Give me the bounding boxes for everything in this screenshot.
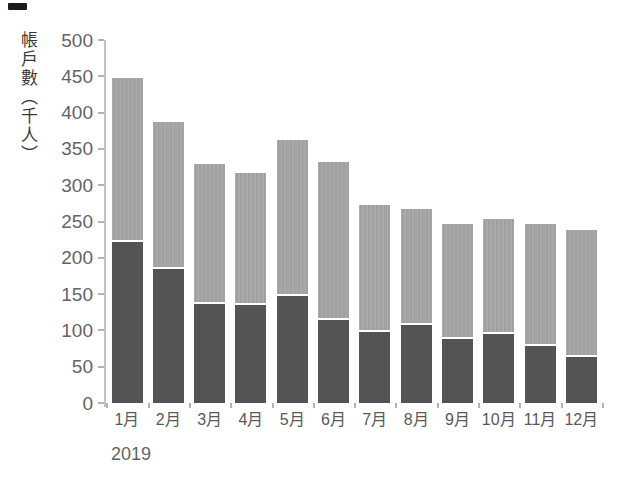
segment-divider [359, 330, 390, 332]
y-tick-mark [98, 75, 104, 77]
y-axis-line [104, 40, 106, 407]
bar-lower-dark-segment [318, 320, 349, 403]
bar [235, 173, 266, 403]
y-tick-mark [98, 148, 104, 150]
y-tick-mark [98, 329, 104, 331]
bar [277, 140, 308, 403]
bar [566, 230, 597, 403]
x-tick-mark [272, 403, 274, 408]
y-tick-label: 250 [33, 212, 93, 231]
x-tick-mark [602, 403, 604, 408]
y-tick-mark [98, 221, 104, 223]
y-tick-label: 450 [33, 67, 93, 86]
x-tick-mark [519, 403, 521, 408]
x-tick-mark [148, 403, 150, 408]
segment-divider [235, 303, 266, 305]
bar [318, 162, 349, 403]
segment-divider [566, 355, 597, 357]
x-tick-mark [189, 403, 191, 408]
x-tick-mark [313, 403, 315, 408]
y-tick-label: 350 [33, 139, 93, 158]
y-tick-label: 300 [33, 176, 93, 195]
y-tick-mark [98, 402, 104, 404]
segment-divider [401, 323, 432, 325]
x-tick-mark [230, 403, 232, 408]
y-tick-mark [98, 39, 104, 41]
bar [442, 224, 473, 403]
segment-divider [112, 240, 143, 242]
x-tick-mark [478, 403, 480, 408]
bar-lower-dark-segment [401, 325, 432, 403]
bar [483, 219, 514, 403]
y-tick-mark [98, 293, 104, 295]
bar-lower-dark-segment [483, 334, 514, 403]
y-tick-label: 0 [33, 394, 93, 413]
bar [359, 205, 390, 403]
segment-divider [277, 294, 308, 296]
scanned-chart-page: { "page": { "background": "#ffffff" }, "… [0, 0, 638, 484]
y-tick-label: 400 [33, 103, 93, 122]
bar-lower-dark-segment [525, 346, 556, 403]
bar [194, 164, 225, 403]
segment-divider [525, 344, 556, 346]
bar-lower-dark-segment [194, 304, 225, 403]
segment-divider [153, 267, 184, 269]
x-axis-year-label: 2019 [111, 444, 151, 465]
scan-artifact-mark [8, 3, 27, 10]
segment-divider [442, 337, 473, 339]
y-tick-label: 500 [33, 31, 93, 50]
bar-lower-dark-segment [359, 332, 390, 403]
segment-divider [483, 332, 514, 334]
bar [401, 209, 432, 403]
segment-divider [194, 302, 225, 304]
y-tick-label: 150 [33, 285, 93, 304]
bar-lower-dark-segment [442, 339, 473, 403]
y-tick-label: 200 [33, 248, 93, 267]
bar-lower-dark-segment [112, 242, 143, 403]
x-tick-mark [561, 403, 563, 408]
y-tick-label: 50 [33, 357, 93, 376]
y-tick-mark [98, 257, 104, 259]
bar-lower-dark-segment [235, 305, 266, 403]
x-tick-mark [106, 403, 108, 408]
bar-lower-dark-segment [277, 296, 308, 403]
bar-lower-dark-segment [153, 269, 184, 403]
x-tick-mark [395, 403, 397, 408]
bar [525, 224, 556, 403]
y-tick-mark [98, 366, 104, 368]
y-tick-mark [98, 112, 104, 114]
bar [112, 78, 143, 403]
y-tick-label: 100 [33, 321, 93, 340]
x-tick-label-month: 12月 [557, 411, 605, 429]
bar-lower-dark-segment [566, 357, 597, 403]
x-tick-mark [437, 403, 439, 408]
y-tick-mark [98, 184, 104, 186]
bar [153, 122, 184, 403]
x-tick-mark [354, 403, 356, 408]
segment-divider [318, 318, 349, 320]
